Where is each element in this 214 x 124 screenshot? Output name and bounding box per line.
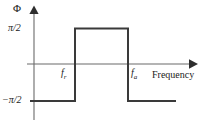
fa-subscript: a — [134, 73, 138, 81]
x-tick-label-resonance: fr — [61, 68, 67, 81]
y-axis-label: Φ — [13, 3, 21, 14]
x-axis-arrow-icon — [189, 59, 198, 69]
x-tick-label-antiresonance: fa — [131, 68, 137, 81]
x-axis-label: Frequency — [152, 70, 194, 80]
y-axis-arrow-icon — [29, 6, 38, 15]
fr-subscript: r — [64, 73, 67, 81]
phase-step-curve — [30, 29, 176, 102]
y-tick-label-negative: −π/2 — [2, 95, 22, 105]
y-tick-label-positive: π/2 — [8, 23, 21, 33]
phase-vs-frequency-figure: Φ π/2 −π/2 fr fa Frequency — [0, 0, 214, 124]
phase-response-plot — [0, 0, 214, 124]
